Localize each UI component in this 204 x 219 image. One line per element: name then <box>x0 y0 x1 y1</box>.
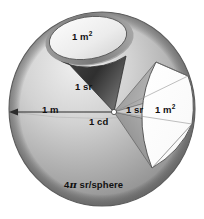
cone-cap-area-label: 1 m2 <box>72 32 92 42</box>
steradian-candela-diagram: 1 m2 1 sr 1 m 1 cd 1 sr 1 m2 4π sr/spher… <box>0 0 204 219</box>
wedge-solid-angle-label: 1 sr <box>126 105 143 115</box>
point-source <box>111 109 116 114</box>
cone-solid-angle-label: 1 sr <box>75 82 92 92</box>
sphere-total-label: 4π sr/sphere <box>64 180 123 190</box>
center-intensity-label: 1 cd <box>89 117 108 127</box>
wedge-area-label: 1 m2 <box>155 105 175 115</box>
pi-symbol: π <box>69 179 76 190</box>
radius-label: 1 m <box>42 105 59 115</box>
